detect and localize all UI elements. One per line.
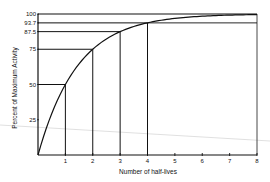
y-tick-label: 75	[29, 46, 36, 52]
y-tick-label: 100	[26, 11, 37, 17]
y-tick-label: 93.7	[24, 20, 36, 26]
plot-area	[38, 14, 257, 155]
x-tick-label: 1	[64, 158, 68, 164]
x-tick-label: 6	[201, 158, 205, 164]
x-tick-label: 7	[228, 158, 232, 164]
x-tick-label: 3	[118, 158, 122, 164]
y-axis-label: Percent of Maximum Activity	[11, 46, 19, 128]
x-tick-label: 5	[173, 158, 177, 164]
x-axis-label: Number of half-lives	[119, 168, 178, 175]
x-tick-label: 8	[255, 158, 259, 164]
scan-artifact-line	[0, 125, 270, 141]
x-tick-label: 2	[91, 158, 95, 164]
x-tick-label: 4	[146, 158, 150, 164]
y-tick-label: 87.5	[24, 29, 36, 35]
y-tick-label: 50	[29, 82, 36, 88]
y-axis-ticks: 25507587.593.7100	[24, 11, 39, 123]
half-life-chart: 25507587.593.7100 12345678 Number of hal…	[0, 0, 270, 182]
y-tick-label: 25	[29, 117, 36, 123]
